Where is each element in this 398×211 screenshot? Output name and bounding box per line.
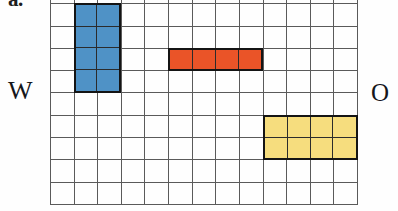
blue-rectangle-unit: [76, 5, 98, 26]
grid-cell: [216, 116, 240, 138]
blue-rectangle-unit: [97, 48, 119, 69]
east-label: O: [371, 80, 389, 105]
grid-cell: [145, 4, 169, 26]
grid-cell: [240, 93, 264, 115]
grid-cell: [193, 93, 217, 115]
grid-cell: [264, 49, 288, 71]
blue-rectangle-unit: [76, 70, 98, 91]
grid-cell: [216, 93, 240, 115]
figure-label: a.: [8, 0, 23, 10]
grid-cell: [122, 4, 146, 26]
grid-cell: [240, 160, 264, 182]
grid-cell: [264, 27, 288, 49]
grid-cell: [240, 183, 264, 205]
grid-cell: [169, 138, 193, 160]
grid-cell: [145, 27, 169, 49]
grid-cell: [311, 49, 335, 71]
grid-cell: [169, 183, 193, 205]
grid-cell: [264, 71, 288, 93]
grid-cell: [145, 138, 169, 160]
grid-cell: [264, 183, 288, 205]
grid-cell: [75, 138, 99, 160]
grid-cell: [193, 116, 217, 138]
orange-rectangle[interactable]: [168, 48, 263, 70]
grid-cell: [145, 183, 169, 205]
grid-cell: [264, 4, 288, 26]
grid-cell: [287, 4, 311, 26]
blue-rectangle-unit: [76, 27, 98, 48]
yellow-rectangle-unit: [265, 138, 288, 158]
grid-cell: [75, 93, 99, 115]
grid-cell: [264, 160, 288, 182]
grid-cell: [122, 93, 146, 115]
grid-cell: [98, 160, 122, 182]
grid-cell: [122, 27, 146, 49]
blue-rectangle-unit: [76, 48, 98, 69]
grid-cell: [169, 160, 193, 182]
grid-cell: [75, 183, 99, 205]
orange-rectangle-unit: [170, 50, 193, 68]
grid-cell: [51, 183, 75, 205]
grid-cell: [122, 183, 146, 205]
grid-cell: [169, 93, 193, 115]
grid-cell: [240, 4, 264, 26]
grid-cell: [122, 49, 146, 71]
grid-cell: [240, 27, 264, 49]
grid-cell: [98, 138, 122, 160]
grid-cell: [334, 160, 358, 182]
grid-cell: [216, 4, 240, 26]
grid-cell: [311, 183, 335, 205]
grid-cell: [311, 4, 335, 26]
grid-cell: [51, 71, 75, 93]
grid-cell: [169, 71, 193, 93]
blue-rectangle[interactable]: [74, 3, 121, 93]
yellow-rectangle-unit: [311, 117, 334, 137]
grid-cell: [75, 116, 99, 138]
grid-cell: [240, 138, 264, 160]
grid-cell: [51, 49, 75, 71]
grid-cell: [122, 160, 146, 182]
grid-cell: [51, 138, 75, 160]
blue-rectangle-unit: [97, 5, 119, 26]
grid-cell: [216, 138, 240, 160]
grid-cell: [334, 4, 358, 26]
grid-cell: [122, 116, 146, 138]
west-label: W: [8, 78, 33, 104]
grid-cell: [193, 27, 217, 49]
grid-cell: [193, 71, 217, 93]
grid-cell: [98, 183, 122, 205]
grid-cell: [145, 116, 169, 138]
grid-cell: [145, 93, 169, 115]
grid-cell: [311, 93, 335, 115]
grid-cell: [169, 27, 193, 49]
grid-cell: [51, 160, 75, 182]
grid-cell: [145, 49, 169, 71]
grid-cell: [240, 116, 264, 138]
grid-cell: [122, 71, 146, 93]
orange-rectangle-unit: [216, 50, 239, 68]
grid-cell: [287, 93, 311, 115]
grid-cell: [311, 160, 335, 182]
yellow-rectangle-unit: [288, 138, 311, 158]
grid-cell: [51, 116, 75, 138]
yellow-rectangle-unit: [265, 117, 288, 137]
grid-cell: [287, 160, 311, 182]
grid-cell: [193, 183, 217, 205]
yellow-rectangle-unit: [288, 117, 311, 137]
grid-cell: [193, 4, 217, 26]
grid-cell: [334, 49, 358, 71]
yellow-rectangle[interactable]: [263, 115, 358, 160]
grid-cell: [240, 71, 264, 93]
grid-cell: [334, 93, 358, 115]
grid-cell: [216, 160, 240, 182]
blue-rectangle-unit: [97, 27, 119, 48]
grid-cell: [193, 138, 217, 160]
grid-cell: [287, 49, 311, 71]
grid-cell: [334, 27, 358, 49]
grid-cell: [216, 27, 240, 49]
yellow-rectangle-unit: [333, 117, 356, 137]
grid-cell: [334, 71, 358, 93]
grid-cell: [311, 27, 335, 49]
grid-cell: [287, 71, 311, 93]
grid-cell: [311, 71, 335, 93]
